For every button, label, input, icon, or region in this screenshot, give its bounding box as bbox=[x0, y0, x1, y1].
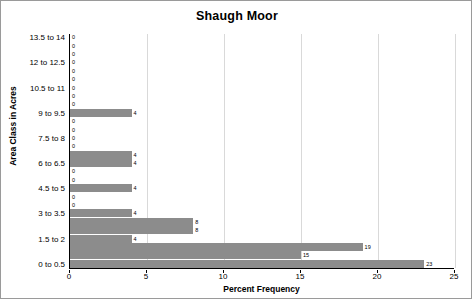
gridline bbox=[455, 34, 456, 268]
bar-value-label: 0 bbox=[72, 30, 75, 44]
y-tick-label: 7.5 to 8 bbox=[38, 134, 65, 144]
x-axis-tick-labels: 0510152025 bbox=[69, 270, 459, 284]
bar-row: 0 bbox=[70, 30, 455, 44]
y-tick-label: 0 to 0.5 bbox=[38, 260, 65, 270]
y-tick-label: 10.5 to 11 bbox=[30, 84, 65, 94]
y-tick-label: 9 to 9.5 bbox=[38, 109, 65, 119]
y-tick-label: 6 to 6.5 bbox=[38, 159, 65, 169]
y-tick-label: 12 to 12.5 bbox=[29, 58, 65, 68]
x-tick-label: 20 bbox=[373, 272, 382, 281]
chart-container: Shaugh Moor 0 to 0.51.5 to 23 to 3.54.5 … bbox=[0, 0, 472, 299]
x-axis-title: Percent Frequency bbox=[69, 284, 454, 294]
x-tick-label: 10 bbox=[219, 272, 228, 281]
y-tick-label: 4.5 to 5 bbox=[38, 184, 65, 194]
y-tick-label: 13.5 to 14 bbox=[29, 33, 65, 43]
y-axis-title: Area Class in Acres bbox=[8, 51, 18, 201]
x-tick-label: 25 bbox=[450, 272, 459, 281]
y-tick-label: 1.5 to 2 bbox=[38, 235, 65, 245]
plot-area: 2315194884004004400004000000000 bbox=[69, 34, 454, 269]
y-tick-label: 3 to 3.5 bbox=[38, 209, 65, 219]
x-tick-label: 0 bbox=[67, 272, 71, 281]
chart-title: Shaugh Moor bbox=[1, 9, 472, 23]
x-tick-label: 5 bbox=[144, 272, 148, 281]
x-tick-label: 15 bbox=[296, 272, 305, 281]
